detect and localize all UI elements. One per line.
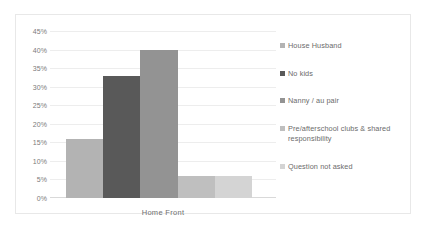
legend-item-label: Nanny / au pair [288,96,339,107]
x-axis: Home Front [50,201,276,219]
legend-item: Question not asked [280,162,408,173]
legend-item-label: Question not asked [288,162,353,173]
legend-swatch-icon [280,164,285,169]
bar [103,76,140,198]
legend-item: Pre/afterschool clubs & shared responsib… [280,124,408,145]
legend-item: House Husband [280,41,408,52]
bar-group [50,31,276,198]
chart-container: 0%5%10%15%20%25%30%35%40%45% Home Front … [15,14,411,214]
chart-legend: House HusbandNo kidsNanny / au pairPre/a… [280,41,408,189]
y-axis-tick-label: 20% [33,120,47,127]
y-axis-tick-label: 30% [33,83,47,90]
legend-item: No kids [280,69,408,80]
y-axis-tick-label: 45% [33,28,47,35]
y-axis-tick-label: 5% [37,176,47,183]
plot-area [50,31,276,198]
legend-item-label: House Husband [288,41,342,52]
bar [178,176,215,198]
y-axis-tick-label: 15% [33,139,47,146]
y-axis-tick-label: 35% [33,65,47,72]
y-axis-tick-label: 0% [37,195,47,202]
bar [215,176,252,198]
y-axis-tick-label: 25% [33,102,47,109]
plot-region: 0%5%10%15%20%25%30%35%40%45% Home Front [16,15,278,215]
legend-item-label: No kids [288,69,313,80]
bar [140,50,177,198]
x-axis-tick-label: Home Front [142,208,185,217]
legend-item-label: Pre/afterschool clubs & shared responsib… [288,124,404,145]
bar [66,139,103,198]
legend-item: Nanny / au pair [280,96,408,107]
legend-swatch-icon [280,98,285,103]
y-axis: 0%5%10%15%20%25%30%35%40%45% [16,15,50,215]
y-axis-tick-label: 10% [33,157,47,164]
legend-swatch-icon [280,126,285,131]
legend-swatch-icon [280,43,285,48]
y-axis-tick-label: 40% [33,46,47,53]
legend-swatch-icon [280,71,285,76]
